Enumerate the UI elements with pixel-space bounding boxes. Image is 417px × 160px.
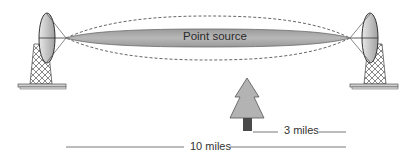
- beam-label: Point source: [183, 31, 247, 43]
- short-distance-label: 3 miles: [284, 125, 319, 136]
- tree: [230, 78, 264, 131]
- long-distance-label: 10 miles: [190, 141, 231, 152]
- diagram-canvas: [0, 0, 417, 160]
- left-antenna-dish: [18, 13, 66, 89]
- right-antenna-dish: [350, 13, 398, 89]
